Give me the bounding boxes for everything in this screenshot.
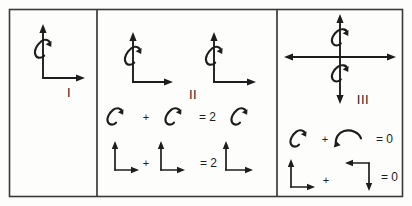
equation-equals-two: = 2 xyxy=(200,156,217,170)
panel-3-label: III xyxy=(357,92,369,107)
equation-equals-two: = 2 xyxy=(199,110,216,124)
equation-plus-operator: + xyxy=(143,157,149,169)
equation-equals-zero: = 0 xyxy=(381,170,398,184)
equation-plus-operator: + xyxy=(323,174,329,186)
panel-2-label: II xyxy=(189,87,197,102)
equation-plus-operator: + xyxy=(143,111,149,123)
equation-plus-operator: + xyxy=(322,133,328,145)
figure-root: I xyxy=(0,0,412,206)
panel-1-label: I xyxy=(67,85,71,100)
equation-equals-zero: = 0 xyxy=(376,132,393,146)
diagram-canvas: I xyxy=(0,0,412,206)
